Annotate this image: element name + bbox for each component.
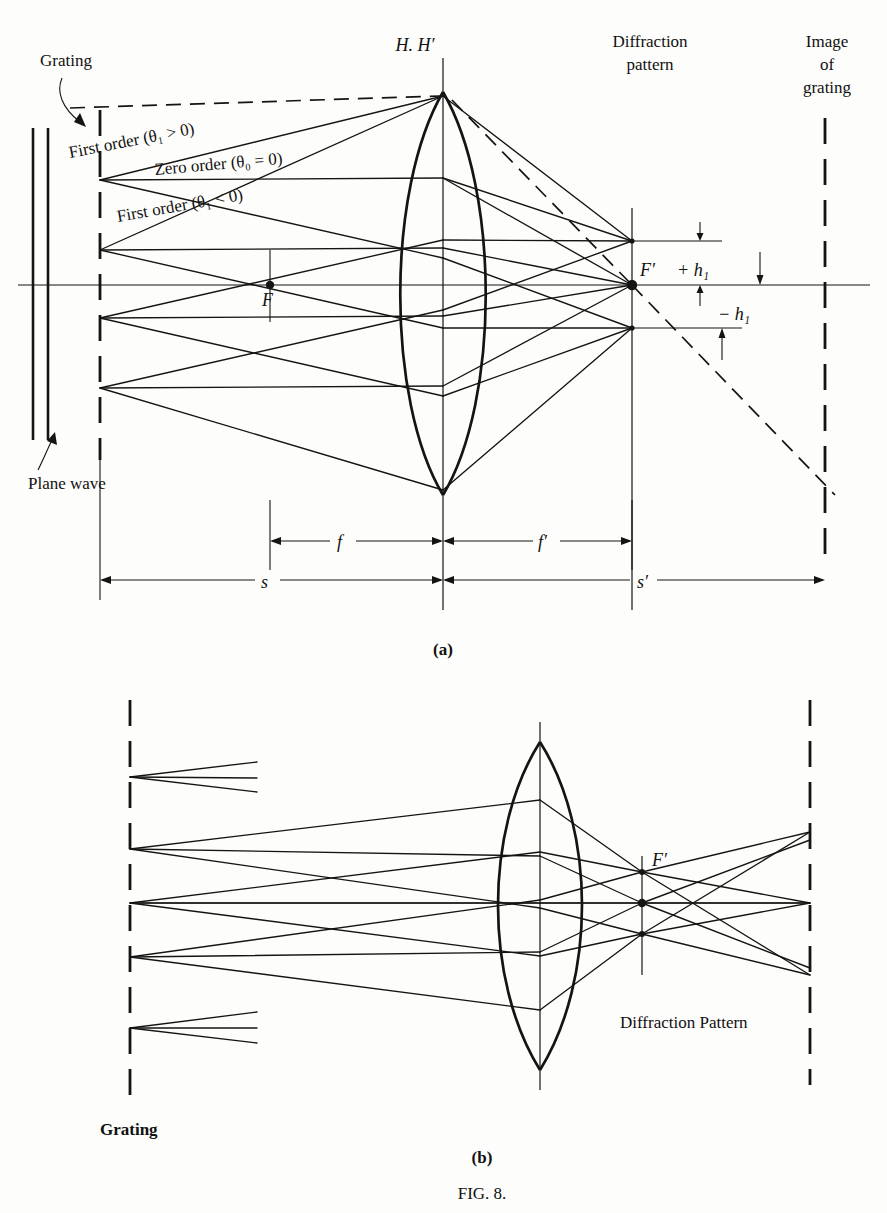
dimension-s xyxy=(100,460,443,600)
label-focal-point-image: F′ xyxy=(639,260,656,280)
label-image-of-grating-line3: grating xyxy=(803,78,852,97)
label-diffraction-pattern-line2: pattern xyxy=(626,55,674,74)
converge-dot-b-center xyxy=(638,899,646,907)
grating-pointer-a xyxy=(60,78,86,127)
label-dimension-s: s xyxy=(261,572,268,592)
ray-fan-4 xyxy=(100,310,443,490)
label-plane-wave: Plane wave xyxy=(28,474,106,493)
focal-point-object-marker xyxy=(266,250,274,322)
ray-diverge-b-center xyxy=(642,840,810,968)
label-image-of-grating-line1: Image xyxy=(806,32,848,51)
label-focal-point-object: F xyxy=(261,290,274,310)
label-grating-a: Grating xyxy=(40,51,92,70)
label-first-order-positive: First order (θ₁ > 0) xyxy=(67,119,196,162)
label-principal-planes: H. H′ xyxy=(395,35,436,55)
construction-line-top xyxy=(70,96,440,108)
ray-converge-b-lower xyxy=(540,908,642,1010)
label-first-order-negative: First order (θ₁ < 0) xyxy=(115,185,244,226)
label-image-of-grating-line2: of xyxy=(820,55,835,74)
ray-fan-1 xyxy=(100,96,443,258)
panel-a-caption: (a) xyxy=(433,640,453,659)
ray-converge-plus-h1 xyxy=(443,96,632,310)
h1-arrows xyxy=(697,222,764,360)
label-dimension-s-prime: s′ xyxy=(637,572,649,592)
label-plus-h1: + h₁ xyxy=(677,260,709,280)
panel-b-caption: (b) xyxy=(472,1148,493,1167)
optics-figure-svg: Grating Plane wave H. H′ Diffraction pat… xyxy=(0,0,887,1213)
ray-fan-b-5 xyxy=(130,1012,257,1043)
label-diffraction-pattern-line1: Diffraction xyxy=(612,32,688,51)
dimension-f xyxy=(270,500,443,570)
panel-b: Grating F′ Diffraction Pattern (b) xyxy=(100,700,810,1167)
construction-line-chief xyxy=(452,100,632,285)
ray-fan-b-1 xyxy=(130,762,257,792)
label-dimension-f-prime: f′ xyxy=(538,532,548,552)
label-dimension-f: f xyxy=(337,532,345,552)
ray-converge-b-upper xyxy=(540,800,642,900)
ray-fan-b-3 xyxy=(130,852,540,956)
plane-wave-lines xyxy=(33,128,48,440)
ray-converge-minus-h1 xyxy=(443,258,632,490)
label-diffraction-pattern-b: Diffraction Pattern xyxy=(620,1013,748,1032)
panel-a: Grating Plane wave H. H′ Diffraction pat… xyxy=(18,32,870,659)
ray-fan-b-2 xyxy=(130,800,540,908)
converge-dot-b-upper xyxy=(639,869,645,875)
figure-caption: FIG. 8. xyxy=(458,1184,507,1203)
label-focal-point-image-b: F′ xyxy=(651,850,668,870)
label-minus-h1: − h₁ xyxy=(718,304,750,324)
label-grating-b: Grating xyxy=(100,1120,158,1139)
label-zero-order: Zero order (θ₀ = 0) xyxy=(154,149,284,179)
converge-dot-b-lower xyxy=(639,931,645,937)
ray-fan-3 xyxy=(100,240,443,396)
figure-root: Grating Plane wave H. H′ Diffraction pat… xyxy=(0,0,887,1213)
dimension-s-prime xyxy=(443,576,825,584)
ray-fan-b-4 xyxy=(130,900,540,1010)
